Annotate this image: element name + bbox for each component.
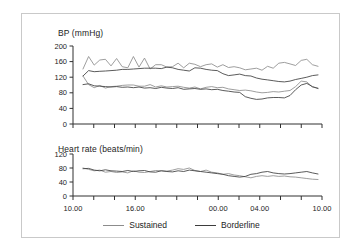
- x-tick-label: 10.00: [313, 204, 332, 213]
- bp-chart: 20016012080400: [22, 14, 341, 134]
- x-tick-label: 10.00: [64, 204, 83, 213]
- bp-y-tick-label: 0: [63, 120, 67, 129]
- heart-rate-chart: 1208040010.0016.0000.0004.0010.00: [22, 134, 341, 219]
- hr-y-tick-label: 0: [63, 192, 67, 201]
- legend-item-sustained[interactable]: Sustained: [103, 220, 167, 230]
- hr-y-tick-label: 120: [54, 150, 67, 159]
- x-tick-label: 00.00: [209, 204, 228, 213]
- bp-y-tick-label: 80: [59, 88, 67, 97]
- legend-line-swatch-icon: [103, 225, 124, 226]
- x-tick-label: 04.00: [250, 204, 269, 213]
- legend-item-label: Sustained: [129, 220, 167, 230]
- bp-series-line: [83, 76, 318, 93]
- hr-y-tick-label: 80: [59, 164, 67, 173]
- bp-y-tick-label: 120: [54, 73, 67, 82]
- bp-series-line: [83, 67, 318, 82]
- legend-item-borderline[interactable]: Borderline: [195, 220, 260, 230]
- bp-y-tick-label: 200: [54, 42, 67, 51]
- bp-plot-svg: 20016012080400: [22, 14, 341, 134]
- bp-y-tick-label: 40: [59, 104, 67, 113]
- hr-y-tick-label: 40: [59, 178, 67, 187]
- legend: SustainedBorderline: [22, 217, 341, 233]
- legend-line-swatch-icon: [195, 225, 216, 226]
- legend-item-label: Borderline: [221, 220, 260, 230]
- figure-frame: BP (mmHg) 20016012080400 Heart rate (bea…: [21, 13, 340, 238]
- hr-plot-svg: 1208040010.0016.0000.0004.0010.00: [22, 134, 341, 219]
- bp-y-tick-label: 160: [54, 57, 67, 66]
- x-tick-label: 16.00: [126, 204, 145, 213]
